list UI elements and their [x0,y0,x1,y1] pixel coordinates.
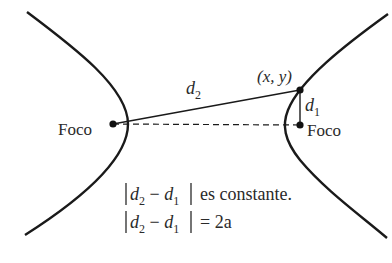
hyperbola-diagram: Foco Foco (x, y) d2 d1 d2 − d1 es consta… [0,0,392,263]
focus-left-label: Foco [58,120,92,139]
svg-text:d2 − d1: d2 − d1 [130,184,179,208]
focus-left-dot [109,120,116,127]
focus-right-dot [296,121,303,128]
point-xy-dot [296,86,303,93]
equation-constant: d2 − d1 es constante. [126,183,292,208]
svg-text:d2 − d1: d2 − d1 [130,212,179,236]
d2-label: d2 [186,78,201,102]
d1-label: d1 [305,95,320,119]
segment-d2 [113,90,300,124]
equation-constant-text: es constante. [200,184,292,204]
point-xy-label: (x, y) [257,67,292,86]
equation-2a: d2 − d1 = 2a [126,211,232,236]
equation-2a-text: = 2a [200,212,232,232]
focal-axis-dashed [113,124,300,125]
focus-right-label: Foco [307,121,341,140]
